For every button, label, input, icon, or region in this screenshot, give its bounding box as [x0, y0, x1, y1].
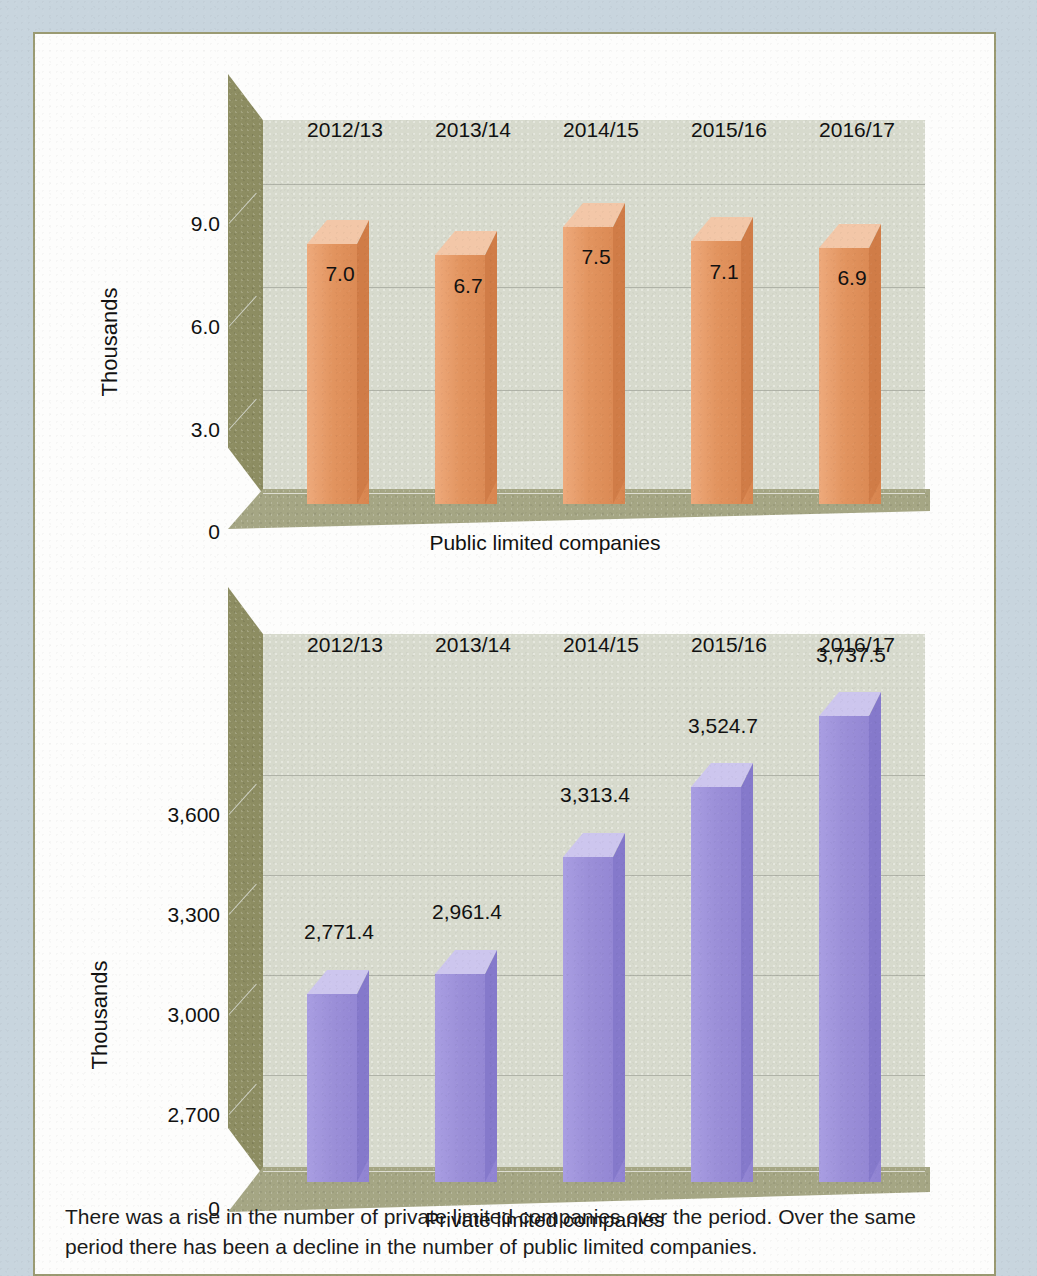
chart-public-limited-companies: 9.0 6.0 3.0 0 Thousands 2012/13 2013/14 … [35, 34, 935, 544]
chart2-category-2: 2014/15 [541, 633, 661, 657]
chart2-ytick-0: 3,600 [115, 803, 220, 827]
chart2-value-1: 2,961.4 [407, 900, 527, 924]
chart2-bar-0[interactable] [307, 994, 369, 1182]
chart2-bar-4[interactable] [819, 716, 881, 1182]
chart1-value-4: 6.9 [812, 266, 892, 290]
chart1-ytick-3: 0 [135, 520, 220, 544]
chart1-category-4: 2016/17 [797, 118, 917, 142]
chart2-ytick-3: 2,700 [115, 1103, 220, 1127]
chart2-category-3: 2015/16 [669, 633, 789, 657]
chart2-category-1: 2013/14 [413, 633, 533, 657]
chart2-side-wall [228, 587, 263, 1175]
figure-caption: There was a rise in the number of privat… [65, 1202, 970, 1262]
chart2-bar-3-side [741, 763, 753, 1182]
chart1-ytick-2: 3.0 [135, 418, 220, 442]
figure-panel: 9.0 6.0 3.0 0 Thousands 2012/13 2013/14 … [33, 32, 996, 1276]
chart1-value-3: 7.1 [684, 260, 764, 284]
chart1-value-2: 7.5 [556, 245, 636, 269]
chart-private-limited-companies: 3,600 3,300 3,000 2,700 0 Thousands 2012… [35, 542, 935, 1182]
chart2-value-3: 3,524.7 [663, 714, 783, 738]
chart2-ytick-1: 3,300 [115, 903, 220, 927]
chart1-category-0: 2012/13 [285, 118, 405, 142]
chart1-ytick-0: 9.0 [135, 212, 220, 236]
chart1-side-wall [228, 74, 263, 494]
chart2-bar-1[interactable] [435, 974, 497, 1182]
chart1-category-1: 2013/14 [413, 118, 533, 142]
chart2-value-4: 3,737.5 [791, 643, 911, 667]
chart2-bar-2[interactable] [563, 857, 625, 1182]
chart1-value-1: 6.7 [428, 274, 508, 298]
chart2-ytick-2: 3,000 [115, 1003, 220, 1027]
chart2-yaxis-title: Thousands [87, 935, 113, 1095]
chart1-bar-1-side [485, 231, 497, 504]
top-page-strip [0, 0, 1037, 30]
chart2-value-0: 2,771.4 [279, 920, 399, 944]
chart1-gridline-9 [263, 184, 925, 185]
chart2-bar-2-side [613, 833, 625, 1182]
chart1-yaxis-title: Thousands [97, 262, 123, 422]
chart1-value-0: 7.0 [300, 262, 380, 286]
chart1-category-3: 2015/16 [669, 118, 789, 142]
chart1-ytick-1: 6.0 [135, 315, 220, 339]
chart2-bar-4-side [869, 692, 881, 1182]
chart2-value-2: 3,313.4 [535, 783, 655, 807]
chart2-bar-1-side [485, 950, 497, 1182]
chart2-bar-0-side [357, 970, 369, 1182]
chart2-bar-3[interactable] [691, 787, 753, 1182]
chart2-category-0: 2012/13 [285, 633, 405, 657]
chart1-category-2: 2014/15 [541, 118, 661, 142]
